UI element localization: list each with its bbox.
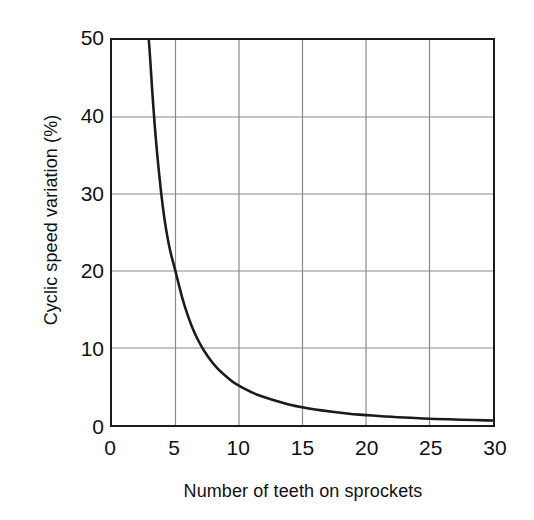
x-axis-tick-labels: 0 5 10 15 20 25 30 [110, 437, 495, 465]
y-tick-label: 50 [46, 27, 104, 48]
y-tick-label: 10 [46, 338, 104, 359]
x-tick-label: 10 [208, 437, 268, 458]
gridlines [112, 40, 493, 425]
x-tick-label: 20 [337, 437, 397, 458]
y-tick-label: 30 [46, 183, 104, 204]
y-axis-tick-labels: 50 40 30 20 10 0 [44, 38, 104, 427]
x-tick-label: 5 [144, 437, 204, 458]
plot-svg [112, 40, 493, 425]
chart-figure: Cyclic speed variation (%) 50 40 30 20 1… [0, 0, 534, 520]
y-tick-label: 40 [46, 105, 104, 126]
data-curve-cyclic-speed-variation [149, 40, 493, 421]
y-tick-label: 20 [46, 260, 104, 281]
x-tick-label: 30 [465, 437, 525, 458]
x-tick-label: 0 [80, 437, 140, 458]
plot-area [110, 38, 495, 427]
x-axis-title: Number of teeth on sprockets [110, 481, 496, 502]
x-tick-label: 15 [273, 437, 333, 458]
x-tick-label: 25 [401, 437, 461, 458]
y-tick-label: 0 [46, 416, 104, 437]
